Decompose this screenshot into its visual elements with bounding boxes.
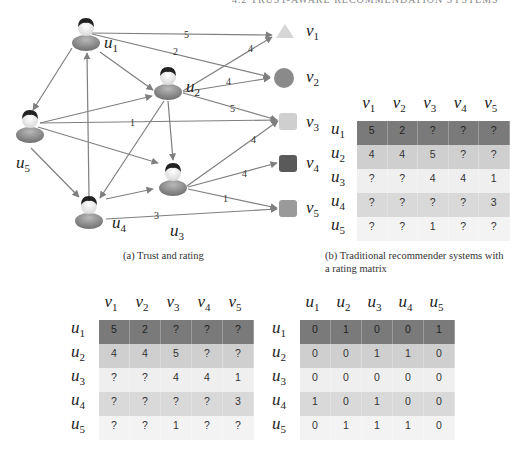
matrix-cell: ? xyxy=(99,368,130,392)
edge-u2-u4 xyxy=(100,101,164,198)
svg-text:2: 2 xyxy=(173,46,178,57)
column-header: v2 xyxy=(393,93,406,114)
matrix-cell: ? xyxy=(192,416,223,440)
matrix-cell: ? xyxy=(130,368,161,392)
matrix-cell: 0 xyxy=(424,392,455,416)
matrix-cell: ? xyxy=(418,193,449,217)
matrix-cell: 0 xyxy=(424,416,455,440)
svg-text:4: 4 xyxy=(226,76,231,87)
matrix-row: ??441 xyxy=(357,169,510,193)
row-header: u2 xyxy=(71,342,85,363)
matrix-cell: 1 xyxy=(479,169,510,193)
rating-u1-v2: 2 xyxy=(173,46,178,57)
matrix-row: 52??? xyxy=(99,320,254,344)
item-node-v4-square-icon xyxy=(279,155,297,172)
matrix-cell: ? xyxy=(479,217,510,241)
edge-u2-u3 xyxy=(168,101,173,160)
matrix-cell: ? xyxy=(192,320,223,344)
matrix-cell: ? xyxy=(418,121,449,145)
column-header: v4 xyxy=(454,93,467,114)
svg-text:3: 3 xyxy=(154,210,159,221)
matrix-cell: 2 xyxy=(388,121,419,145)
matrix-cell: ? xyxy=(357,193,388,217)
rating-u3-v3: 4 xyxy=(251,134,256,145)
matrix-row: ????3 xyxy=(357,193,510,217)
matrix-cell: ? xyxy=(449,145,480,169)
matrix-cell: 5 xyxy=(418,145,449,169)
matrix-row: ??1?? xyxy=(99,416,254,440)
matrix-row: ??1?? xyxy=(357,217,510,241)
matrix-cell: 1 xyxy=(362,392,393,416)
matrix-cell: ? xyxy=(223,344,254,368)
matrix-cell: 0 xyxy=(300,320,331,344)
matrix-row: 01001 xyxy=(300,320,455,344)
row-header: u2 xyxy=(331,143,345,164)
matrix-row: ????3 xyxy=(99,392,254,416)
column-header: v2 xyxy=(136,292,149,313)
matrix-cell: ? xyxy=(449,193,480,217)
label-v3: v3 xyxy=(306,112,320,133)
trust-matrix-bottom: u1u2u3u4u5u101001u200110u300000u410100u5… xyxy=(276,292,455,436)
column-header: v1 xyxy=(362,93,375,114)
edge-u5-u2 xyxy=(40,96,152,123)
column-header: v3 xyxy=(423,93,436,114)
column-header: v3 xyxy=(167,292,180,313)
matrix-cell: 4 xyxy=(99,344,130,368)
svg-text:1: 1 xyxy=(130,117,135,128)
matrix-cell: 3 xyxy=(479,193,510,217)
edge-u3-v5 xyxy=(188,189,277,208)
matrix-row: 10100 xyxy=(300,392,455,416)
user-node-u3 xyxy=(159,163,187,196)
column-header: v5 xyxy=(229,292,242,313)
label-v4: v4 xyxy=(306,153,320,174)
matrix-cell: ? xyxy=(388,193,419,217)
svg-text:4: 4 xyxy=(251,134,256,145)
edge-u3-v3 xyxy=(187,121,278,186)
rating-u1-v1: 5 xyxy=(184,29,189,40)
matrix-cell: ? xyxy=(130,392,161,416)
matrix-cell: ? xyxy=(192,392,223,416)
matrix-cell: ? xyxy=(223,416,254,440)
matrix-cell: ? xyxy=(192,344,223,368)
row-header: u4 xyxy=(71,390,85,411)
matrix-cell: ? xyxy=(161,320,192,344)
matrix-cell: 0 xyxy=(424,344,455,368)
matrix-cell: 1 xyxy=(331,320,362,344)
row-header: u2 xyxy=(272,342,286,363)
edge-u4-u1 xyxy=(87,53,89,197)
row-header: u3 xyxy=(331,167,345,188)
matrix-row: 445?? xyxy=(99,344,254,368)
matrix-cell: 3 xyxy=(223,392,254,416)
matrix-cell: 0 xyxy=(362,320,393,344)
edge-u5-v3 xyxy=(40,120,277,123)
matrix-cell: 1 xyxy=(362,344,393,368)
caption-a: (a) Trust and rating xyxy=(123,249,204,262)
edge-u5-u4 xyxy=(31,148,79,197)
matrix-cell: 1 xyxy=(418,217,449,241)
row-header: u4 xyxy=(331,191,345,212)
matrix-row: 01110 xyxy=(300,416,455,440)
matrix-cell: 0 xyxy=(300,416,331,440)
edge-u4-u3 xyxy=(106,189,153,199)
matrix-row: 445?? xyxy=(357,145,510,169)
column-header: v4 xyxy=(198,292,211,313)
label-v2: v2 xyxy=(306,67,319,88)
matrix-cell: 5 xyxy=(99,320,130,344)
edge-u1-v2 xyxy=(92,34,270,77)
rating-u5-v3: 1 xyxy=(130,117,135,128)
matrix-cell: ? xyxy=(479,121,510,145)
matrix-cell: ? xyxy=(449,121,480,145)
column-header: v5 xyxy=(484,93,497,114)
row-header: u5 xyxy=(331,215,345,236)
matrix-cell: 4 xyxy=(449,169,480,193)
column-header: v1 xyxy=(105,292,118,313)
user-icon xyxy=(16,127,44,143)
row-header: u5 xyxy=(71,414,85,435)
item-node-v5-square-icon xyxy=(279,200,297,217)
matrix-row: ??441 xyxy=(99,368,254,392)
matrix-cell: ? xyxy=(99,392,130,416)
rating-matrix-bottom: v1v2v3v4v5u152???u2445??u3??441u4????3u5… xyxy=(75,292,254,436)
column-header: u3 xyxy=(368,292,382,313)
matrix-cell: ? xyxy=(130,416,161,440)
rating-u4-v5: 3 xyxy=(154,210,159,221)
